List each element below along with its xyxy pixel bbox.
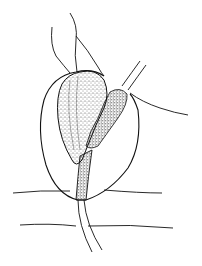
upper-left-threads [52,13,105,76]
illustration-canvas [0,0,202,266]
upper-right-paired-tube [122,61,146,90]
large-stippled-sac [58,71,108,164]
anatomical-illustration [0,0,202,266]
horizontal-layer-lines [13,190,173,228]
